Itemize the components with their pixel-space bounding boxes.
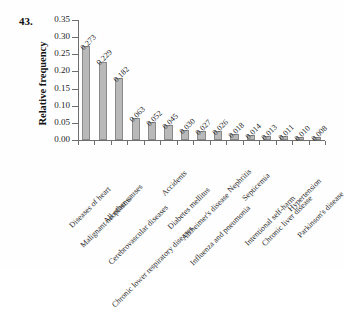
x-axis-tick	[111, 141, 112, 145]
x-axis-line	[78, 140, 325, 141]
y-axis-tick-label: 0.15	[54, 83, 70, 93]
x-axis-tick	[292, 141, 293, 145]
y-axis-tick-label: 0.30	[54, 31, 70, 41]
y-axis-tick-label: 0.35	[54, 14, 70, 24]
bar	[115, 78, 123, 140]
x-axis-tick	[78, 141, 79, 145]
x-axis-tick	[127, 141, 128, 145]
y-axis-tick-label: 0.10	[54, 100, 70, 110]
x-axis-tick	[160, 141, 161, 145]
y-axis-tick-label: 0.05	[54, 117, 70, 127]
x-axis-tick	[226, 141, 227, 145]
bar	[82, 46, 90, 140]
x-axis-tick	[144, 141, 145, 145]
x-axis-tick	[243, 141, 244, 145]
x-axis-tick	[259, 141, 260, 145]
y-axis-title: Relative frequency	[37, 24, 48, 144]
bar	[99, 62, 107, 141]
x-axis-tick	[309, 141, 310, 145]
x-axis-tick	[325, 141, 326, 145]
y-axis-tick-label: 0.00	[54, 134, 70, 144]
x-axis-tick	[210, 141, 211, 145]
category-labels-layer: Diseases of heartMalignant neoplasmsAll …	[78, 146, 343, 270]
x-axis-tick	[276, 141, 277, 145]
y-axis-tick-label: 0.25	[54, 48, 70, 58]
x-axis-tick	[177, 141, 178, 145]
x-axis-tick	[94, 141, 95, 145]
y-axis-tick-label: 0.20	[54, 65, 70, 75]
problem-number: 43.	[19, 15, 33, 27]
x-axis-tick	[193, 141, 194, 145]
